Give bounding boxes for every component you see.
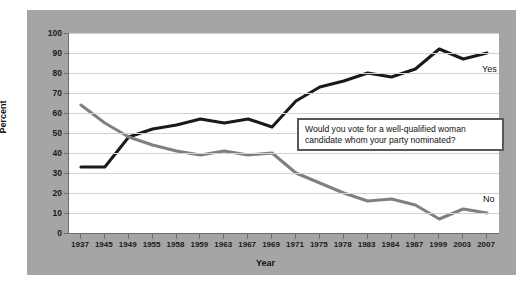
x-tick-mark-1959 <box>199 234 200 239</box>
y-tick-mark-0 <box>64 233 68 234</box>
annotation-line-1: Would you vote for a well-qualified woma… <box>305 124 496 135</box>
annotation-line-2: candidate whom your party nominated? <box>305 135 496 146</box>
x-tick-mark-1969 <box>271 234 272 239</box>
gridline-60 <box>69 113 499 114</box>
x-tick-mark-1949 <box>128 234 129 239</box>
x-tick-mark-1984 <box>391 234 392 239</box>
y-tick-label-70: 70 <box>32 89 62 98</box>
series-label-yes: Yes <box>482 64 497 74</box>
gridline-100 <box>69 33 499 34</box>
y-tick-mark-50 <box>64 133 68 134</box>
series-label-no: No <box>483 194 495 204</box>
y-tick-mark-20 <box>64 193 68 194</box>
x-tick-mark-2007 <box>486 234 487 239</box>
y-tick-label-40: 40 <box>32 149 62 158</box>
x-tick-mark-1987 <box>414 234 415 239</box>
x-tick-mark-2003 <box>462 234 463 239</box>
gridline-40 <box>69 153 499 154</box>
y-tick-label-10: 10 <box>32 209 62 218</box>
gridline-80 <box>69 73 499 74</box>
x-axis-title: Year <box>0 258 531 268</box>
y-tick-mark-80 <box>64 73 68 74</box>
y-tick-mark-100 <box>64 33 68 34</box>
gridline-70 <box>69 93 499 94</box>
x-tick-mark-1955 <box>152 234 153 239</box>
y-axis-tick-labels: 1009080706050403020100 <box>28 33 62 233</box>
y-tick-label-20: 20 <box>32 189 62 198</box>
question-annotation-box: Would you vote for a well-qualified woma… <box>297 118 504 151</box>
y-tick-mark-30 <box>64 173 68 174</box>
chart-figure: 1009080706050403020100 Percent 193719451… <box>0 0 531 287</box>
x-tick-mark-1983 <box>367 234 368 239</box>
x-tick-mark-1967 <box>247 234 248 239</box>
gridline-30 <box>69 173 499 174</box>
gridline-0 <box>69 233 499 234</box>
gridline-10 <box>69 213 499 214</box>
gridline-20 <box>69 193 499 194</box>
y-tick-label-30: 30 <box>32 169 62 178</box>
x-tick-mark-1978 <box>343 234 344 239</box>
y-tick-label-90: 90 <box>32 49 62 58</box>
gridline-90 <box>69 53 499 54</box>
y-tick-mark-40 <box>64 153 68 154</box>
y-tick-label-80: 80 <box>32 69 62 78</box>
x-tick-mark-1945 <box>104 234 105 239</box>
x-tick-mark-1958 <box>176 234 177 239</box>
y-tick-mark-70 <box>64 93 68 94</box>
y-tick-mark-60 <box>64 113 68 114</box>
y-tick-label-0: 0 <box>32 229 62 238</box>
y-axis-title: Percent <box>0 100 8 133</box>
y-tick-mark-10 <box>64 213 68 214</box>
y-tick-label-100: 100 <box>32 29 62 38</box>
y-tick-label-60: 60 <box>32 109 62 118</box>
x-tick-mark-1937 <box>80 234 81 239</box>
y-tick-mark-90 <box>64 53 68 54</box>
x-tick-mark-1963 <box>223 234 224 239</box>
x-tick-label-2007: 2007 <box>471 241 501 249</box>
x-tick-mark-1975 <box>319 234 320 239</box>
x-tick-mark-1971 <box>295 234 296 239</box>
x-tick-mark-1999 <box>438 234 439 239</box>
y-tick-label-50: 50 <box>32 129 62 138</box>
